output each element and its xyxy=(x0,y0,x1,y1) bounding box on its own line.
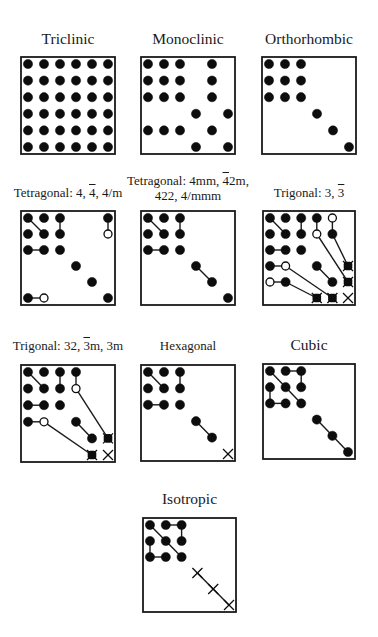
filled-dot-icon xyxy=(71,417,80,426)
panel-title-line: Monoclinic xyxy=(120,30,256,48)
filled-dot-icon xyxy=(177,536,186,545)
filled-dot-icon xyxy=(207,59,216,68)
filled-dot-icon xyxy=(175,367,184,376)
filled-dot-icon xyxy=(281,399,290,408)
filled-dot-icon xyxy=(161,536,170,545)
panel-title-line: Hexagonal xyxy=(120,339,256,354)
title-text: Tetragonal: 4, xyxy=(14,185,89,200)
filled-dot-icon xyxy=(159,245,168,254)
stiffness-matrix-diagram xyxy=(20,56,116,155)
filled-dot-icon xyxy=(71,261,80,270)
filled-dot-icon xyxy=(103,126,112,135)
filled-dot-icon xyxy=(87,126,96,135)
title-text: Tetragonal: 4mm, xyxy=(127,173,222,188)
filled-dot-icon xyxy=(265,366,274,375)
filled-dot-icon xyxy=(297,213,306,222)
crossed-filled-dot-icon xyxy=(103,433,113,443)
filled-dot-icon xyxy=(159,384,168,393)
filled-dot-icon xyxy=(87,59,96,68)
title-text: Hexagonal xyxy=(160,338,216,353)
filled-dot-icon xyxy=(312,109,321,118)
filled-dot-icon xyxy=(175,76,184,85)
stiffness-matrix-diagram xyxy=(140,364,236,462)
filled-dot-icon xyxy=(207,277,216,286)
filled-dot-icon xyxy=(23,367,32,376)
filled-dot-icon xyxy=(191,261,200,270)
crossed-filled-dot-icon xyxy=(312,293,322,303)
filled-dot-icon xyxy=(281,229,290,238)
filled-dot-icon xyxy=(39,126,48,135)
filled-dot-icon xyxy=(265,399,274,408)
filled-dot-icon xyxy=(159,400,168,409)
filled-dot-icon xyxy=(223,293,232,302)
panel-title: Tetragonal: 4mm, 42m,422, 4/mmm xyxy=(120,174,256,204)
filled-dot-icon xyxy=(265,261,274,270)
filled-dot-icon xyxy=(55,142,64,151)
filled-dot-icon xyxy=(264,76,273,85)
panel-title-line: Orthorhombic xyxy=(241,30,377,48)
panel-title-line: Trigonal: 32, 3m, 3m xyxy=(0,339,136,354)
stiffness-matrix-diagram xyxy=(262,210,356,306)
filled-dot-icon xyxy=(103,93,112,102)
filled-dot-icon xyxy=(297,399,306,408)
filled-dot-icon xyxy=(55,76,64,85)
filled-dot-icon xyxy=(281,213,290,222)
title-text: Trigonal: 32, xyxy=(13,338,84,353)
panel-title: Trigonal: 32, 3m, 3m xyxy=(0,339,136,354)
title-text: Trigonal: 3, xyxy=(274,185,338,200)
filled-dot-icon xyxy=(161,520,170,529)
filled-dot-icon xyxy=(175,59,184,68)
matrix-frame xyxy=(262,57,356,154)
filled-dot-icon xyxy=(39,142,48,151)
filled-dot-icon xyxy=(87,76,96,85)
title-text: Orthorhombic xyxy=(265,30,353,47)
filled-dot-icon xyxy=(23,417,32,426)
filled-dot-icon xyxy=(39,93,48,102)
filled-dot-icon xyxy=(39,401,48,410)
filled-dot-icon xyxy=(23,109,32,118)
open-dot-icon xyxy=(313,230,321,238)
filled-dot-icon xyxy=(175,384,184,393)
panel-title: Trigonal: 3, 3 xyxy=(242,186,376,201)
panel-title-line: Cubic xyxy=(242,336,376,354)
filled-dot-icon xyxy=(328,126,337,135)
stiffness-matrix-diagram xyxy=(140,56,236,155)
filled-dot-icon xyxy=(39,109,48,118)
filled-dot-icon xyxy=(265,245,274,254)
filled-dot-icon xyxy=(87,434,96,443)
filled-dot-icon xyxy=(39,384,48,393)
filled-dot-icon xyxy=(55,245,64,254)
filled-dot-icon xyxy=(344,142,353,151)
filled-dot-icon xyxy=(87,277,96,286)
filled-dot-icon xyxy=(55,229,64,238)
title-text: Isotropic xyxy=(162,490,217,507)
filled-dot-icon xyxy=(39,213,48,222)
filled-dot-icon xyxy=(297,245,306,254)
filled-dot-icon xyxy=(159,367,168,376)
filled-dot-icon xyxy=(312,415,321,424)
filled-dot-icon xyxy=(23,245,32,254)
filled-dot-icon xyxy=(264,93,273,102)
filled-dot-icon xyxy=(23,142,32,151)
filled-dot-icon xyxy=(23,213,32,222)
filled-dot-icon xyxy=(343,447,352,456)
filled-dot-icon xyxy=(175,400,184,409)
stiffness-matrix-diagram xyxy=(261,56,357,155)
filled-dot-icon xyxy=(39,76,48,85)
panel-title: Isotropic xyxy=(122,490,257,508)
matrix-frame xyxy=(21,57,115,154)
filled-dot-icon xyxy=(143,126,152,135)
panel-title-line: Tetragonal: 4, 4, 4/m xyxy=(0,186,136,201)
filled-dot-icon xyxy=(281,245,290,254)
filled-dot-icon xyxy=(143,384,152,393)
filled-dot-icon xyxy=(143,245,152,254)
filled-dot-icon xyxy=(39,229,48,238)
filled-dot-icon xyxy=(145,520,154,529)
filled-dot-icon xyxy=(265,383,274,392)
filled-dot-icon xyxy=(103,109,112,118)
filled-dot-icon xyxy=(296,76,305,85)
filled-dot-icon xyxy=(297,229,306,238)
filled-dot-icon xyxy=(55,59,64,68)
filled-dot-icon xyxy=(281,383,290,392)
filled-dot-icon xyxy=(175,93,184,102)
